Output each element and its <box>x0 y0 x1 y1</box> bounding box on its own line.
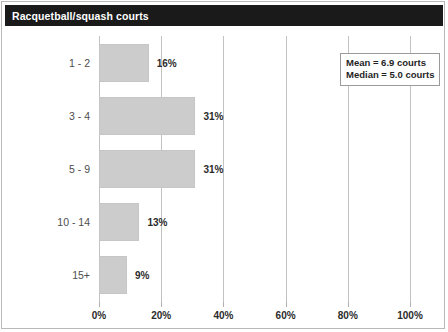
bar-value-label: 31% <box>203 110 223 121</box>
x-tick-label: 40% <box>213 310 233 321</box>
category-slot: 3 - 4 <box>0 89 90 142</box>
x-tick <box>286 302 287 307</box>
stats-legend-box: Mean = 6.9 courts Median = 5.0 courts <box>340 53 440 86</box>
page-title: Racquetball/squash courts <box>5 10 149 22</box>
x-tick <box>348 302 349 307</box>
x-tick <box>223 302 224 307</box>
x-tick <box>99 302 100 307</box>
category-slot: 5 - 9 <box>0 142 90 195</box>
category-label: 5 - 9 <box>69 163 90 175</box>
x-tick-label: 100% <box>397 310 423 321</box>
category-slot: 1 - 2 <box>0 36 90 89</box>
x-tick-label: 60% <box>276 310 296 321</box>
bar-row: 31% <box>99 97 410 135</box>
x-tick <box>161 302 162 307</box>
bar-10-14[interactable] <box>99 203 139 241</box>
category-slot: 10 - 14 <box>0 196 90 249</box>
x-tick-label: 80% <box>338 310 358 321</box>
category-label: 1 - 2 <box>69 57 90 69</box>
x-tick-label: 0% <box>92 310 106 321</box>
category-label: 15+ <box>72 269 90 281</box>
category-slot: 15+ <box>0 249 90 302</box>
bar-3-4[interactable] <box>99 97 195 135</box>
chart-figure: Racquetball/squash courts 1 - 23 - 45 - … <box>0 0 448 332</box>
chart-title-banner: Racquetball/squash courts <box>5 5 443 26</box>
bar-1-2[interactable] <box>99 44 149 82</box>
median-label: Median = 5.0 courts <box>346 69 434 81</box>
bar-value-label: 9% <box>135 270 149 281</box>
mean-label: Mean = 6.9 courts <box>346 57 434 69</box>
category-label: 10 - 14 <box>57 216 90 228</box>
bar-15+[interactable] <box>99 256 127 294</box>
bar-5-9[interactable] <box>99 150 195 188</box>
x-tick <box>410 302 411 307</box>
bar-row: 13% <box>99 203 410 241</box>
bar-value-label: 13% <box>147 217 167 228</box>
bar-value-label: 31% <box>203 164 223 175</box>
category-axis: 1 - 23 - 45 - 910 - 1415+ <box>0 36 90 302</box>
bar-row: 31% <box>99 150 410 188</box>
x-tick-label: 20% <box>151 310 171 321</box>
x-axis: 0%20%40%60%80%100% <box>99 302 410 328</box>
bar-value-label: 16% <box>157 57 177 68</box>
category-label: 3 - 4 <box>69 110 90 122</box>
bar-row: 9% <box>99 256 410 294</box>
